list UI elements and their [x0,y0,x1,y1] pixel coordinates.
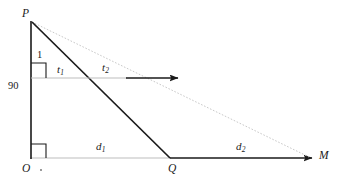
distance-label-d1-subscript: 1 [102,145,106,154]
right-angle-marker-origin [31,144,46,158]
ray-label-t2-subscript: 2 [105,66,109,75]
segment-P-to-Q [32,22,170,158]
distance-label-d2: d2 [236,141,246,154]
length-label-1: 1 [37,50,42,61]
origin-dot [40,169,42,171]
ray-label-t1-subscript: 1 [60,68,64,77]
point-label-P: P [22,8,29,20]
geometry-diagram: P 1 90 t1 t2 O d1 Q d2 M [0,0,340,185]
distance-label-d1-base: d [96,140,102,152]
point-label-M: M [319,150,329,162]
point-label-Q: Q [168,163,176,175]
point-label-O: O [22,163,30,175]
diagram-canvas [0,0,340,185]
distance-label-d2-subscript: 2 [242,145,246,154]
angle-label-90: 90 [8,81,19,92]
distance-label-d2-base: d [236,140,242,152]
ray-label-t2: t2 [102,62,109,75]
dotted-line-P-to-M [32,22,309,157]
right-angle-marker-upper [31,63,46,78]
distance-label-d1: d1 [96,141,106,154]
ray-label-t1: t1 [57,64,64,77]
